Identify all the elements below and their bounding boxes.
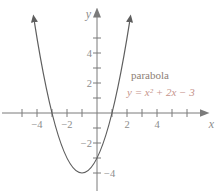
x-axis-letter: x: [208, 117, 215, 131]
plot-canvas: y x −4 −2 2 4 4 2 −2 −4 parabola y = x² …: [0, 0, 222, 196]
axes: [2, 17, 200, 191]
parabola-figure: y x −4 −2 2 4 4 2 −2 −4 parabola y = x² …: [0, 0, 222, 196]
x-tick-label-4: 4: [154, 119, 160, 130]
curve-name-label: parabola: [131, 69, 169, 81]
y-tick-label-4: 4: [87, 48, 93, 59]
curve: [34, 21, 129, 173]
y-tick-label-neg4: −4: [104, 168, 116, 179]
y-tick-label-2: 2: [87, 78, 92, 89]
y-tick-label-neg2: −2: [81, 138, 92, 149]
y-axis-letter: y: [85, 7, 92, 21]
x-tick-label-2: 2: [124, 119, 129, 130]
x-tick-label-neg2: −2: [61, 119, 72, 130]
parabola-curve: [34, 21, 129, 173]
curve-equation-label: y = x² + 2x − 3: [126, 86, 195, 98]
x-tick-label-neg4: −4: [31, 119, 43, 130]
